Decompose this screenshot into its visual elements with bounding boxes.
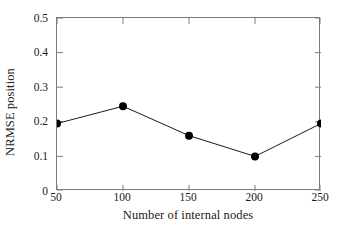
data-point: [251, 152, 259, 160]
x-tick-label-250: 250: [300, 192, 340, 204]
y-tick-label-0.2: 0.2: [34, 116, 48, 128]
x-tick-label-100: 100: [102, 192, 142, 204]
data-point: [317, 120, 321, 128]
y-tick-label-0.5: 0.5: [34, 13, 48, 25]
y-tick-label-0.3: 0.3: [34, 82, 48, 94]
y-tick-label-0.4: 0.4: [34, 47, 48, 59]
x-tick-label-200: 200: [234, 192, 274, 204]
data-point: [185, 132, 193, 140]
x-tick-label-50: 50: [36, 192, 76, 204]
y-tick-label-0.1: 0.1: [34, 151, 48, 163]
data-markers: [57, 102, 321, 160]
plot-canvas: [57, 18, 321, 191]
x-axis-title: Number of internal nodes: [56, 208, 320, 223]
data-point: [119, 102, 127, 110]
plot-area: [56, 17, 320, 190]
data-line: [57, 106, 321, 156]
axis-ticks: [57, 18, 321, 191]
x-tick-label-150: 150: [168, 192, 208, 204]
chart-figure: NRMSE position 0.5 0.4 0.3 0.2 0.1 0 50 …: [0, 0, 340, 232]
data-point: [57, 120, 61, 128]
y-axis-title: NRMSE position: [1, 17, 19, 207]
